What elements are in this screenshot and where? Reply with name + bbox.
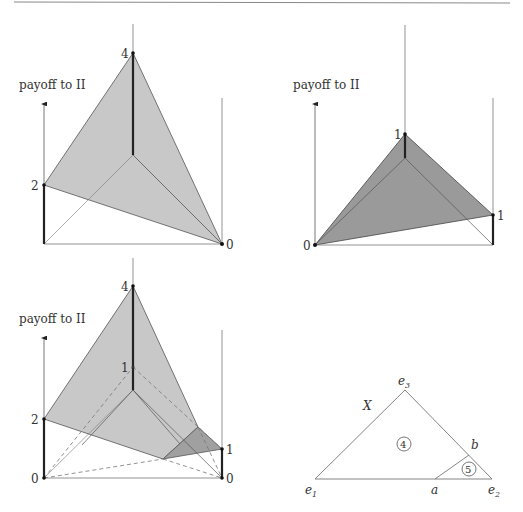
region-5-label: 5 [465,464,471,475]
vertex-e1: e1 [305,483,317,499]
tick-right-bottom: 0 [226,472,234,486]
tick-center-top: 1 [394,128,402,142]
tick-left: 2 [31,179,39,193]
point-a: a [431,483,438,497]
panel-simplex: 4 5 X e3 e1 e2 a b [305,374,500,499]
tick-left: 0 [303,239,311,253]
tick-left-top: 2 [31,413,39,427]
axis-label: payoff to II [19,312,86,326]
axis-label: payoff to II [293,78,360,92]
tick-left-bottom: 0 [31,472,39,486]
tick-center-top: 4 [121,280,129,294]
segment-ab [435,455,469,479]
tick-right-top: 1 [226,443,234,457]
vertex-e2: e2 [488,483,500,499]
tick-right: 1 [497,209,505,223]
region-4-label: 4 [400,439,406,450]
vertex-e3: e3 [398,374,410,390]
tick-center-top: 4 [121,47,129,61]
panel-bottom-left: payoff to II 4 1 2 0 1 0 [19,258,234,486]
header-rule [14,2,510,3]
set-label-x: X [362,399,372,413]
point-b: b [471,438,479,452]
figure-canvas: payoff to II 4 2 0 payoff to II 1 0 1 [0,0,523,512]
tick-right: 0 [226,238,234,252]
panel-top-left: payoff to II 4 2 0 [19,24,234,252]
tick-center-mid: 1 [121,361,129,375]
panel-top-right: payoff to II 1 0 1 [293,25,505,253]
axis-label: payoff to II [19,78,86,92]
